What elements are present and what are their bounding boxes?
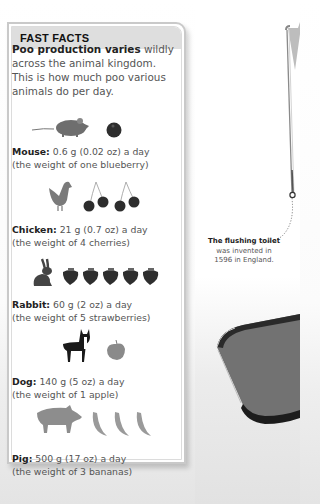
dog-icon — [59, 327, 93, 365]
fact-amount: 140 g (5 oz) a day — [36, 376, 124, 387]
cherry-icon — [82, 180, 142, 214]
pig-icon — [34, 405, 86, 435]
strawberry-icon — [60, 265, 165, 287]
callout-bold: The flushing toilet — [208, 237, 280, 245]
toilet-callout: The flushing toilet was invented in 1596… — [199, 237, 289, 266]
fact-pig: Pig: 500 g (17 oz) a day (the weight of … — [12, 453, 182, 478]
callout-line3: 1596 in England. — [214, 256, 273, 264]
fact-rabbit: Rabbit: 60 g (2 oz) a day (the weight of… — [12, 299, 182, 324]
fact-amount: 21 g (0.7 oz) a day — [57, 224, 148, 235]
chicken-icon — [45, 178, 75, 212]
intro-bold: Poo production varies — [12, 43, 141, 55]
mouse-icon — [30, 115, 95, 139]
fact-mouse: Mouse: 0.6 g (0.02 oz) a day (the weight… — [12, 146, 182, 171]
fact-animal: Mouse: — [12, 146, 50, 157]
rabbit-icon — [30, 258, 58, 290]
fact-amount: 60 g (2 oz) a day — [50, 299, 132, 310]
callout-line2: was invented in — [216, 247, 271, 255]
fact-animal: Chicken: — [12, 224, 57, 235]
apple-icon — [105, 338, 127, 362]
fact-chicken: Chicken: 21 g (0.7 oz) a day (the weight… — [12, 224, 182, 249]
fact-dog: Dog: 140 g (5 oz) a day (the weight of 1… — [12, 376, 182, 401]
fact-comparison: (the weight of 5 strawberries) — [12, 312, 150, 323]
fact-animal: Dog: — [12, 376, 36, 387]
fact-comparison: (the weight of 4 cherries) — [12, 237, 130, 248]
fact-comparison: (the weight of 3 bananas) — [12, 466, 132, 477]
blueberry-icon — [105, 121, 123, 139]
fact-animal: Pig: — [12, 453, 32, 464]
fact-amount: 500 g (17 oz) a day — [32, 453, 126, 464]
fact-amount: 0.6 g (0.02 oz) a day — [50, 146, 150, 157]
fact-comparison: (the weight of 1 apple) — [12, 389, 118, 400]
fact-comparison: (the weight of one blueberry) — [12, 159, 149, 170]
fact-animal: Rabbit: — [12, 299, 50, 310]
intro-text: Poo production varies wildly across the … — [12, 42, 174, 98]
banana-icon — [89, 410, 157, 440]
